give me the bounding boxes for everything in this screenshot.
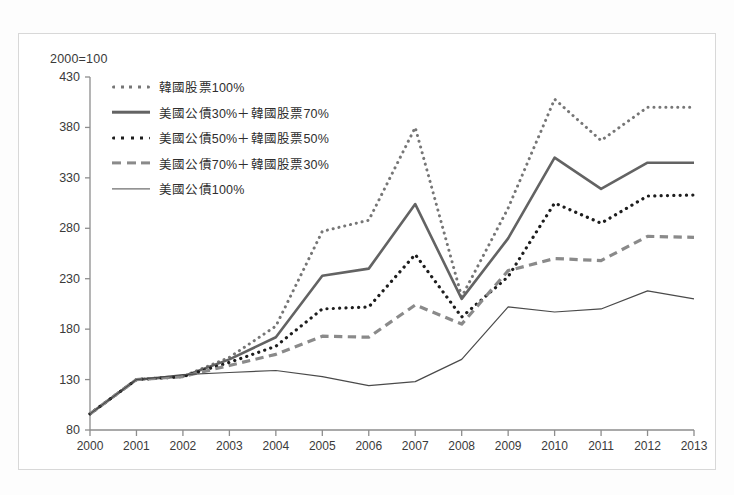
legend-line-sample: [112, 85, 150, 88]
y-axis-tick-label: 80: [38, 423, 80, 437]
x-axis-tick-label: 2012: [625, 439, 671, 453]
y-axis-tick-label: 430: [38, 70, 80, 84]
legend-item[interactable]: 美國公債50%＋韓國股票50%: [112, 125, 422, 151]
y-axis-tick-label: 230: [38, 272, 80, 286]
x-axis-tick-label: 2008: [439, 439, 485, 453]
series-line-5: [90, 291, 694, 414]
chart-figure: 2000=100 80130180230280330380430 2000200…: [0, 0, 734, 495]
dashed-line-key: [112, 157, 150, 169]
x-axis-tick-label: 2000: [67, 439, 113, 453]
x-axis-tick-label: 2002: [160, 439, 206, 453]
legend-item[interactable]: 韓國股票100%: [112, 74, 422, 100]
dotted-line-key: [112, 81, 150, 93]
legend-item-label: 美國公債30%＋韓國股票70%: [159, 103, 329, 122]
x-axis-tick-label: 2011: [578, 439, 624, 453]
legend-line-sample: [112, 188, 150, 189]
legend-item[interactable]: 美國公債30%＋韓國股票70%: [112, 100, 422, 126]
legend-item[interactable]: 美國公債100%: [112, 176, 422, 202]
x-axis-tick-label: 2007: [392, 439, 438, 453]
legend-item-label: 韓國股票100%: [159, 77, 245, 96]
y-axis-tick-label: 280: [38, 221, 80, 235]
solid-thin-line-key: [112, 183, 150, 195]
x-axis-tick-label: 2009: [485, 439, 531, 453]
legend-item-label: 美國公債70%＋韓國股票30%: [159, 154, 329, 173]
legend-line-sample: [112, 136, 150, 139]
solid-thick-line-key: [112, 106, 150, 118]
series-line-3: [90, 195, 694, 414]
x-axis-tick-label: 2004: [253, 439, 299, 453]
x-axis-tick-label: 2006: [346, 439, 392, 453]
chart-legend: 韓國股票100%美國公債30%＋韓國股票70%美國公債50%＋韓國股票50%美國…: [112, 74, 422, 202]
y-axis-tick-label: 180: [38, 322, 80, 336]
x-axis-tick-label: 2005: [299, 439, 345, 453]
y-axis-tick-label: 330: [38, 171, 80, 185]
legend-item-label: 美國公債100%: [159, 179, 245, 198]
legend-line-sample: [112, 111, 150, 114]
dotted-bold-line-key: [112, 132, 150, 144]
x-axis-tick-label: 2010: [532, 439, 578, 453]
series-line-4: [90, 236, 694, 414]
x-axis-tick-label: 2013: [671, 439, 717, 453]
y-axis-tick-label: 130: [38, 373, 80, 387]
legend-line-sample: [112, 162, 150, 165]
x-axis-tick-label: 2003: [206, 439, 252, 453]
legend-item-label: 美國公債50%＋韓國股票50%: [159, 128, 329, 147]
x-axis-tick-label: 2001: [113, 439, 159, 453]
y-axis-tick-label: 380: [38, 120, 80, 134]
legend-item[interactable]: 美國公債70%＋韓國股票30%: [112, 151, 422, 177]
